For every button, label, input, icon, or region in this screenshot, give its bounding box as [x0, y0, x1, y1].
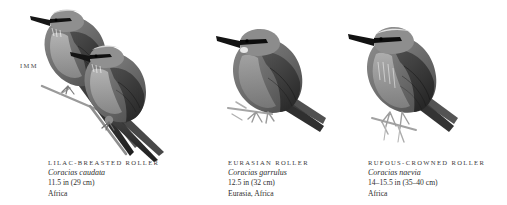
species-scientific-name: Coracias naevia [368, 168, 485, 179]
species-size: 12.5 in (32 cm) [228, 178, 309, 189]
species-caption-lilac-breasted-roller: LILAC-BREASTED ROLLER Coracias caudata 1… [48, 157, 159, 200]
species-size: 11.5 in (29 cm) [48, 178, 159, 189]
species-scientific-name: Coracias caudata [48, 168, 159, 179]
species-caption-rufous-crowned-roller: RUFOUS-CROWNED ROLLER Coracias naevia 14… [368, 157, 485, 200]
species-range: Eurasia, Africa [228, 189, 309, 200]
eurasian-roller-illustration [212, 22, 332, 147]
lilac-breasted-roller-illustration [30, 2, 180, 162]
species-common-name: RUFOUS-CROWNED ROLLER [368, 157, 485, 168]
species-size: 14–15.5 in (35–40 cm) [368, 178, 485, 189]
species-common-name: EURASIAN ROLLER [228, 157, 309, 168]
species-range: Africa [48, 189, 159, 200]
rufous-crowned-roller-illustration [342, 22, 467, 150]
species-common-name: LILAC-BREASTED ROLLER [48, 157, 159, 168]
bird-plate: IMM [0, 0, 507, 205]
species-scientific-name: Coracias garrulus [228, 168, 309, 179]
species-caption-eurasian-roller: EURASIAN ROLLER Coracias garrulus 12.5 i… [228, 157, 309, 200]
species-range: Africa [368, 189, 485, 200]
